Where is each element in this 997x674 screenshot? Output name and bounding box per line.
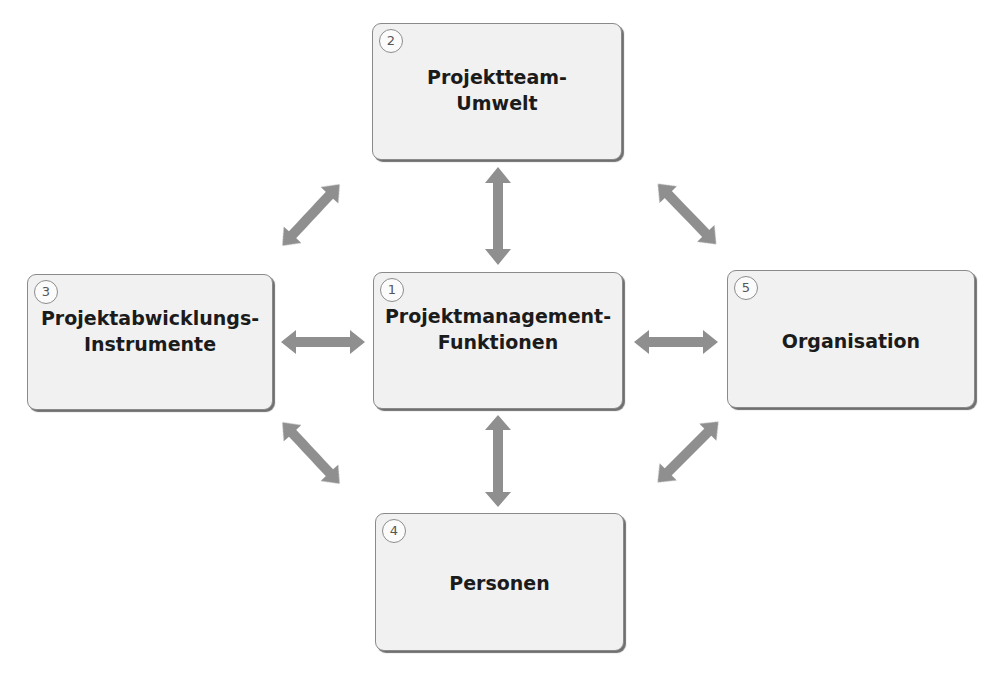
node-label-line2: Instrumente xyxy=(28,331,272,357)
arrow-3-1 xyxy=(281,330,365,354)
arrow-1-2 xyxy=(485,167,511,265)
node-label-line1: Projektmanagement- xyxy=(374,303,622,329)
arrow-3-2 xyxy=(274,176,349,254)
arrow-1-4 xyxy=(485,415,511,507)
node-number-badge: 1 xyxy=(380,278,404,302)
node-projektteam-umwelt: 2 Projektteam- Umwelt xyxy=(372,23,622,160)
arrow-1-5 xyxy=(634,330,718,354)
node-label-line1: Projektabwicklungs- xyxy=(28,305,272,331)
node-label-line1: Projektteam- xyxy=(373,64,621,90)
node-label-line1: Personen xyxy=(376,570,623,596)
node-organisation: 5 Organisation xyxy=(727,270,975,408)
node-label-line2: Funktionen xyxy=(374,329,622,355)
node-number-badge: 5 xyxy=(734,276,758,300)
node-personen: 4 Personen xyxy=(375,513,624,651)
node-projektmanagement-funktionen: 1 Projektmanagement- Funktionen xyxy=(373,272,623,409)
node-label-line2: Umwelt xyxy=(373,90,621,116)
arrow-2-5 xyxy=(649,175,725,252)
node-number-badge: 3 xyxy=(34,280,58,304)
node-number-badge: 2 xyxy=(379,29,403,53)
node-number-badge: 4 xyxy=(382,519,406,543)
arrow-3-4 xyxy=(274,414,349,492)
node-projektabwicklungs-instrumente: 3 Projektabwicklungs- Instrumente xyxy=(27,274,273,410)
arrow-4-5 xyxy=(649,413,727,491)
node-label-line1: Organisation xyxy=(728,328,974,354)
